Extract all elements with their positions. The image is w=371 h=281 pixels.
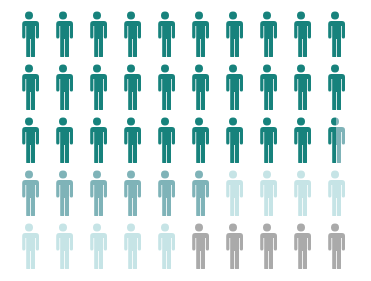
person-icon <box>289 11 313 57</box>
person-icon <box>85 223 109 269</box>
person-icon <box>187 170 211 216</box>
person-icon <box>51 117 75 163</box>
person-icon <box>17 223 41 269</box>
person-icon <box>85 170 109 216</box>
person-icon <box>255 117 279 163</box>
person-icon <box>289 170 313 216</box>
person-icon <box>119 64 143 110</box>
person-icon <box>221 223 245 269</box>
person-icon <box>323 64 347 110</box>
person-icon <box>153 117 177 163</box>
person-icon <box>17 170 41 216</box>
person-icon <box>119 11 143 57</box>
person-icon <box>85 64 109 110</box>
person-icon <box>187 223 211 269</box>
person-icon <box>51 11 75 57</box>
person-icon <box>153 170 177 216</box>
person-icon <box>51 170 75 216</box>
person-icon <box>187 117 211 163</box>
person-icon <box>289 64 313 110</box>
person-icon <box>221 170 245 216</box>
pictograph-grid <box>0 0 371 281</box>
person-icon <box>17 11 41 57</box>
person-icon <box>255 223 279 269</box>
person-icon <box>85 11 109 57</box>
person-icon <box>187 11 211 57</box>
person-icon <box>255 11 279 57</box>
person-icon <box>323 117 347 163</box>
person-icon <box>51 64 75 110</box>
person-icon <box>119 223 143 269</box>
person-icon <box>85 117 109 163</box>
person-icon <box>187 64 211 110</box>
person-icon <box>289 223 313 269</box>
person-icon <box>323 223 347 269</box>
person-icon <box>221 64 245 110</box>
person-icon <box>255 64 279 110</box>
person-icon <box>153 223 177 269</box>
person-icon <box>51 223 75 269</box>
person-icon <box>221 117 245 163</box>
person-icon <box>323 11 347 57</box>
person-icon <box>153 11 177 57</box>
person-icon <box>119 170 143 216</box>
person-icon <box>323 170 347 216</box>
person-icon <box>17 117 41 163</box>
person-icon <box>119 117 143 163</box>
person-icon <box>255 170 279 216</box>
person-icon <box>221 11 245 57</box>
person-icon <box>289 117 313 163</box>
person-icon <box>17 64 41 110</box>
person-icon <box>153 64 177 110</box>
